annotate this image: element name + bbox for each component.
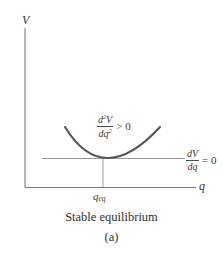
numerator-variable: V (106, 114, 112, 125)
second-derivative-numerator: d2V (97, 114, 113, 125)
qeq-subscript: eq (99, 194, 106, 203)
x-axis-label: q (199, 180, 205, 192)
second-derivative-annotation: d2V dq2 > 0 (97, 114, 131, 140)
stable-equilibrium-figure: V q qeq d2V dq2 > 0 dV dq = 0 Stable equ… (0, 0, 223, 253)
figure-caption: Stable equilibrium (0, 210, 223, 225)
second-derivative-fraction: d2V dq2 (97, 114, 113, 140)
figure-index: (a) (0, 230, 223, 245)
denominator-exponent: 2 (109, 127, 112, 134)
denominator-dq: dq (99, 129, 109, 140)
first-derivative-fraction: dV dq (186, 149, 199, 172)
first-derivative-relation: = 0 (202, 155, 216, 166)
second-derivative-denominator: dq2 (98, 128, 113, 139)
second-derivative-relation: > 0 (116, 121, 130, 132)
first-derivative-denominator: dq (187, 162, 199, 172)
first-derivative-annotation: dV dq = 0 (186, 149, 217, 172)
x-tick-label-qeq: qeq (93, 191, 106, 203)
first-derivative-numerator: dV (186, 149, 199, 159)
y-axis-label: V (22, 14, 29, 26)
